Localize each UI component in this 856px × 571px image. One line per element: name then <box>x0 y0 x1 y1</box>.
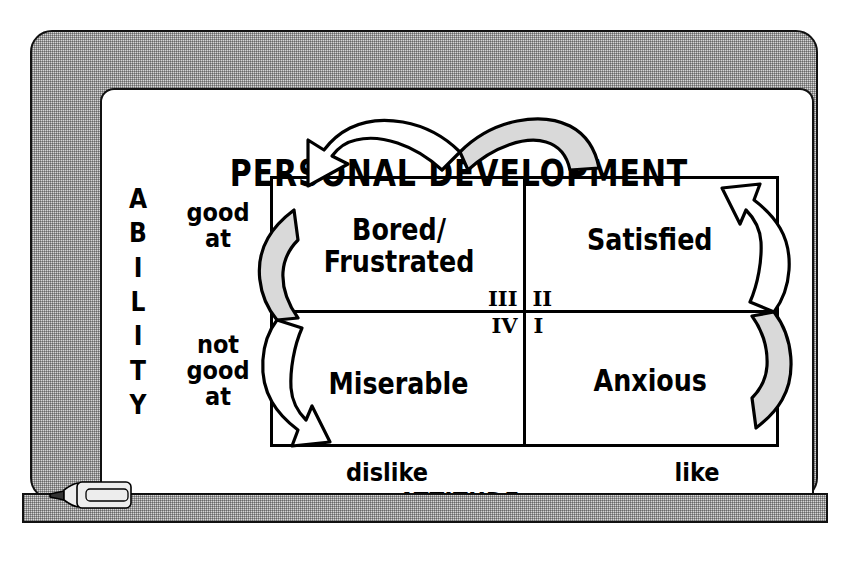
quadrant-numeral-ii: II <box>533 288 553 309</box>
x-tick-dislike: dislike <box>332 458 442 487</box>
y-tick-not-good-at: not good at <box>170 332 266 410</box>
whiteboard-marker-icon[interactable] <box>48 478 148 512</box>
quadrant-label: Anxious <box>594 365 707 397</box>
screenshot-stage: PERSONAL DEVELOPMENT A B I L I T Y good … <box>0 0 856 571</box>
quadrant-matrix: Bored/ Frustrated Satisfied Miserable An… <box>270 176 779 447</box>
quadrant-label: Satisfied <box>587 224 713 256</box>
quadrant-numeral-iv: IV <box>491 315 517 336</box>
quadrant-label: Miserable <box>329 368 469 400</box>
y-axis-label-ability: A B I L I T Y <box>121 182 155 422</box>
quadrant-numeral-iii: III <box>488 288 517 309</box>
quadrant-bored-frustrated[interactable]: Bored/ Frustrated <box>273 179 525 312</box>
quadrant-label: Bored/ Frustrated <box>324 214 474 279</box>
quadrant-numeral-i: I <box>534 315 544 336</box>
whiteboard-frame: PERSONAL DEVELOPMENT A B I L I T Y good … <box>30 30 818 500</box>
y-tick-good-at: good at <box>170 200 266 252</box>
whiteboard-surface: PERSONAL DEVELOPMENT A B I L I T Y good … <box>100 88 814 512</box>
quadrant-miserable[interactable]: Miserable <box>273 312 525 445</box>
quadrant-satisfied[interactable]: Satisfied <box>525 179 777 312</box>
x-tick-like: like <box>642 458 752 487</box>
quadrant-anxious[interactable]: Anxious <box>525 312 777 445</box>
